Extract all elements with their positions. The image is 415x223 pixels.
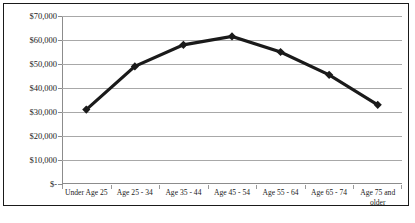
data-point-marker [228, 32, 236, 40]
x-axis-tick-label: Age 75 and older [353, 188, 402, 207]
series-line [86, 36, 377, 109]
x-axis-tick-label: Age 45 - 54 [208, 188, 257, 198]
y-axis-tick-mark [58, 88, 62, 89]
y-axis-tick-label: $40,000 [5, 84, 57, 93]
y-axis-tick-label: $70,000 [5, 12, 57, 21]
y-axis-tick-label: $50,000 [5, 60, 57, 69]
x-axis-tick-label: Under Age 25 [62, 188, 111, 198]
figure: $70,000$60,000$50,000$40,000$30,000$20,0… [0, 0, 415, 223]
y-axis-tick-label: $20,000 [5, 132, 57, 141]
figure-caption [0, 209, 415, 223]
x-axis-tick-label: Age 55 - 64 [256, 188, 305, 198]
line-series [62, 16, 402, 184]
y-axis-tick-mark [58, 64, 62, 65]
y-axis-tick-mark [58, 160, 62, 161]
y-axis-tick-mark [58, 112, 62, 113]
x-axis-tick-label: Age 35 - 44 [159, 188, 208, 198]
x-axis-tick-label: Age 25 - 34 [111, 188, 160, 198]
y-axis-tick-mark [58, 16, 62, 17]
plot-area [62, 16, 402, 184]
y-axis-tick-mark [58, 40, 62, 41]
y-axis-tick-label: $30,000 [5, 108, 57, 117]
y-axis-tick-label: $10,000 [5, 156, 57, 165]
chart-border: $70,000$60,000$50,000$40,000$30,000$20,0… [3, 3, 409, 206]
y-axis-tick-mark [58, 184, 62, 185]
y-axis-tick-labels: $70,000$60,000$50,000$40,000$30,000$20,0… [4, 16, 57, 184]
x-axis-tick-label: Age 65 - 74 [305, 188, 354, 198]
y-axis-tick-label: $60,000 [5, 36, 57, 45]
y-axis-tick-label: $- [5, 180, 57, 189]
y-axis-tick-mark [58, 136, 62, 137]
